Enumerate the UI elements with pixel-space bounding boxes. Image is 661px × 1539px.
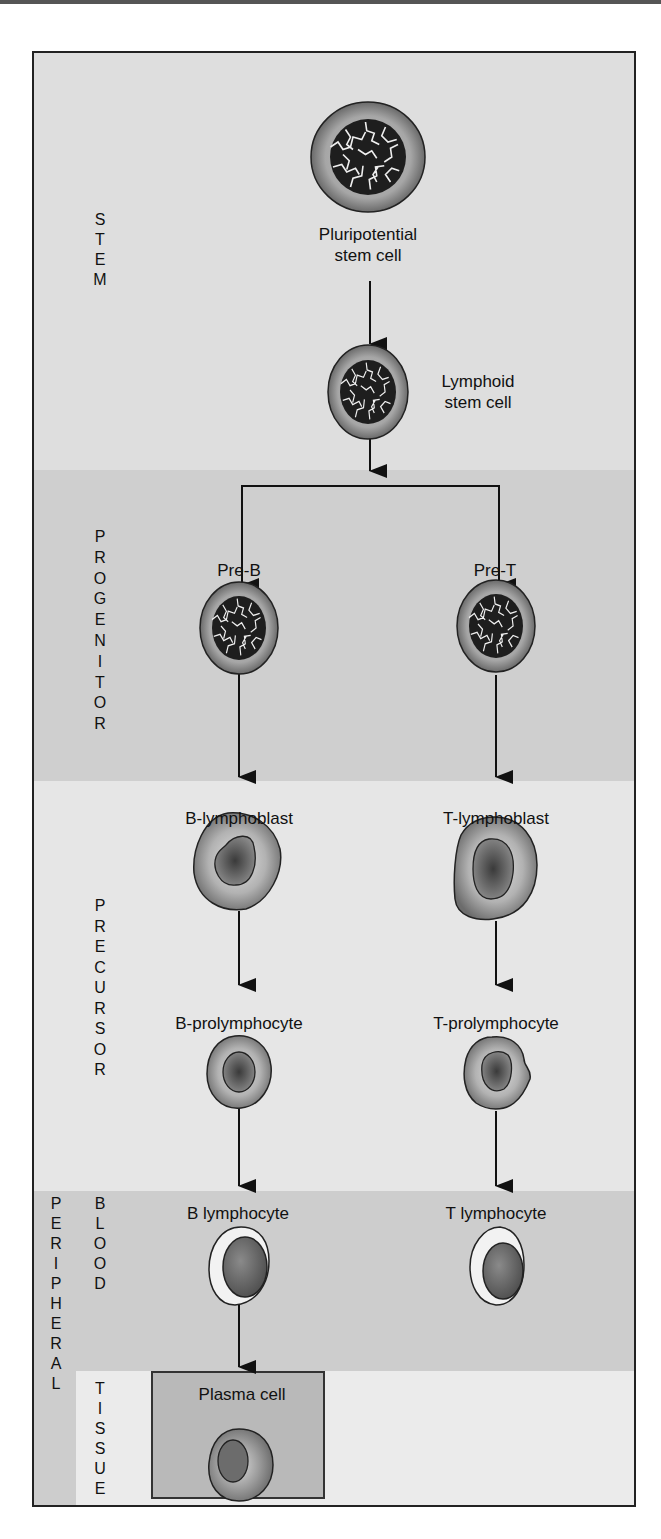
label-plasma-cell: Plasma cell bbox=[199, 1384, 286, 1405]
label-pre-b: Pre-B bbox=[217, 560, 260, 581]
label-b-lymphoblast: B-lymphoblast bbox=[185, 808, 293, 829]
diagram-frame: S T E M P R O G E N I T O R P R E C U R … bbox=[32, 51, 636, 1507]
pre-b-cell-icon bbox=[200, 582, 278, 674]
t-prolymphocyte-icon bbox=[464, 1037, 530, 1109]
plasma-cell-icon bbox=[209, 1429, 273, 1501]
label-lymphoid-stem-cell: Lymphoid stem cell bbox=[441, 371, 514, 413]
label-b-prolymphocyte: B-prolymphocyte bbox=[175, 1013, 303, 1034]
label-t-lymphocyte: T lymphocyte bbox=[446, 1203, 547, 1224]
t-lymphoblast-icon bbox=[454, 817, 537, 919]
b-prolymphocyte-icon bbox=[207, 1036, 271, 1108]
label-pre-t: Pre-T bbox=[474, 560, 517, 581]
top-rule bbox=[0, 0, 661, 4]
label-t-prolymphocyte: T-prolymphocyte bbox=[433, 1013, 559, 1034]
pre-t-cell-icon bbox=[457, 580, 535, 672]
b-lymphocyte-icon bbox=[209, 1227, 269, 1305]
diagram-canvas bbox=[34, 53, 634, 1505]
t-lymphocyte-icon bbox=[470, 1227, 524, 1305]
branch-connector bbox=[242, 486, 499, 584]
pluripotential-stem-cell-icon bbox=[311, 102, 425, 212]
label-pluripotential-stem-cell: Pluripotential stem cell bbox=[319, 224, 417, 266]
label-b-lymphocyte: B lymphocyte bbox=[187, 1203, 289, 1224]
lymphoid-stem-cell-icon bbox=[328, 345, 408, 439]
label-t-lymphoblast: T-lymphoblast bbox=[443, 808, 549, 829]
